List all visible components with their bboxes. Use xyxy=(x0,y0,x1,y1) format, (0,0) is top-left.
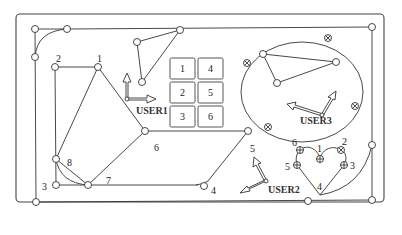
point-8[interactable] xyxy=(53,156,60,163)
button-grid: 1 4 2 5 3 6 xyxy=(170,58,223,127)
point-4[interactable] xyxy=(201,183,208,190)
user3-frame: USER3 xyxy=(241,35,363,143)
label-point-3: 3 xyxy=(42,181,47,192)
heart-label-3: 3 xyxy=(350,160,355,171)
path-point[interactable] xyxy=(64,26,71,33)
heart-point-2[interactable] xyxy=(338,147,345,154)
x-axis-arrow-icon xyxy=(127,95,156,103)
point-7[interactable] xyxy=(85,182,92,189)
user3-triangle xyxy=(263,54,336,83)
user2-frame: USER2 xyxy=(240,157,300,195)
y-axis-arrow-icon xyxy=(123,73,131,99)
user3-axis-icon xyxy=(287,91,336,117)
crossed-point[interactable] xyxy=(244,60,251,67)
y-axis-arrow-icon xyxy=(321,91,336,116)
label-point-4: 4 xyxy=(211,185,216,196)
grid-button-4-label: 4 xyxy=(208,63,213,74)
heart-label-1: 1 xyxy=(317,143,322,154)
x-axis-arrow-icon xyxy=(287,102,323,116)
outer-path-arc-right xyxy=(320,145,372,195)
segment-1-8 xyxy=(56,67,98,159)
heart-label-6: 6 xyxy=(292,137,297,148)
point-3[interactable] xyxy=(53,182,60,189)
crossed-point[interactable] xyxy=(265,124,272,131)
segment-2-3 xyxy=(55,67,56,185)
label-point-5: 5 xyxy=(250,143,255,154)
heart-label-2: 2 xyxy=(342,136,347,147)
grid-button-3[interactable]: 3 xyxy=(170,106,195,127)
heart-point-6[interactable] xyxy=(297,147,304,154)
outer-path-corner-arc xyxy=(35,29,67,57)
outer-path-top xyxy=(67,27,372,29)
grid-button-5-label: 5 xyxy=(208,87,213,98)
path-point[interactable] xyxy=(369,197,376,204)
point-2[interactable] xyxy=(52,64,59,71)
label-point-7: 7 xyxy=(106,175,111,186)
user1-origin xyxy=(125,97,129,101)
label-point-2: 2 xyxy=(56,53,61,64)
user1-label: USER1 xyxy=(136,105,168,116)
user3-point[interactable] xyxy=(260,51,267,58)
grid-button-2-label: 2 xyxy=(180,87,185,98)
x-axis-arrow-icon xyxy=(240,180,266,193)
path-point[interactable] xyxy=(369,24,376,31)
crossed-point[interactable] xyxy=(352,103,359,110)
point-1[interactable] xyxy=(95,64,102,71)
grid-button-3-label: 3 xyxy=(180,111,185,122)
crossed-point[interactable] xyxy=(325,35,332,42)
y-axis-arrow-icon xyxy=(253,157,267,182)
user2-label: USER2 xyxy=(268,184,300,195)
segment-4-5 xyxy=(196,131,248,185)
path-point[interactable] xyxy=(33,199,40,206)
point-5[interactable] xyxy=(245,128,252,135)
label-point-6: 6 xyxy=(154,142,159,153)
grid-button-2[interactable]: 2 xyxy=(170,82,195,103)
user3-point[interactable] xyxy=(274,80,281,87)
user2-origin xyxy=(264,179,268,183)
path-point[interactable] xyxy=(369,142,376,149)
user3-label: USER3 xyxy=(300,115,332,126)
grid-button-5[interactable]: 5 xyxy=(198,82,223,103)
heart-label-5: 5 xyxy=(285,161,290,172)
heart-point-5[interactable] xyxy=(294,162,301,169)
path-point[interactable] xyxy=(32,26,39,33)
grid-button-6[interactable]: 6 xyxy=(198,106,223,127)
user3-ellipse xyxy=(241,42,363,142)
user1-point[interactable] xyxy=(134,39,141,46)
user1-point[interactable] xyxy=(177,27,184,34)
path-point[interactable] xyxy=(32,54,39,61)
heart-point-3[interactable] xyxy=(341,162,348,169)
grid-button-6-label: 6 xyxy=(208,111,213,122)
point-6[interactable] xyxy=(142,128,149,135)
grid-button-4[interactable]: 4 xyxy=(198,58,223,79)
path-point[interactable] xyxy=(305,198,312,205)
user3-point[interactable] xyxy=(333,59,340,66)
user1-point[interactable] xyxy=(139,79,146,86)
user1-axis-icon xyxy=(123,73,156,103)
label-point-8: 8 xyxy=(67,157,72,168)
heart-label-4: 4 xyxy=(317,181,322,192)
grid-button-1-label: 1 xyxy=(180,63,185,74)
label-point-1: 1 xyxy=(97,53,102,64)
work-cell-diagram: 2 1 6 7 3 8 4 5 USER1 1 4 2 xyxy=(0,0,402,235)
segment-6-7 xyxy=(88,131,145,185)
heart-point-1[interactable] xyxy=(317,156,324,163)
grid-button-1[interactable]: 1 xyxy=(170,58,195,79)
